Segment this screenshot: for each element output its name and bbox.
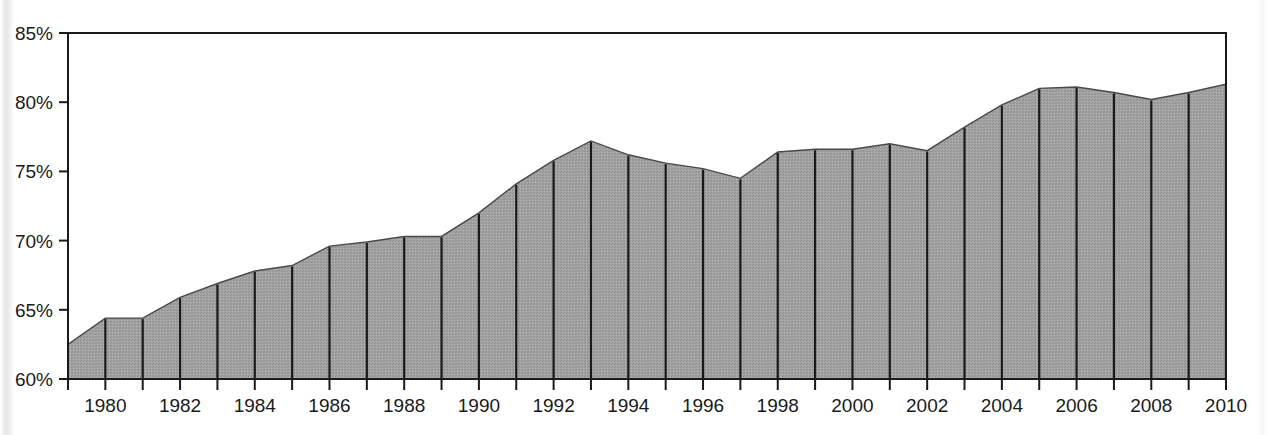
x-tick-label-2000: 2000 bbox=[831, 395, 873, 416]
y-axis: 60%65%70%75%80%85% bbox=[15, 23, 68, 390]
x-tick-label-1986: 1986 bbox=[308, 395, 350, 416]
x-tick-label-2006: 2006 bbox=[1055, 395, 1097, 416]
y-tick-label-65: 65% bbox=[15, 300, 53, 321]
x-tick-label-1988: 1988 bbox=[383, 395, 425, 416]
x-tick-label-1984: 1984 bbox=[234, 395, 277, 416]
y-tick-label-75: 75% bbox=[15, 161, 53, 182]
y-tick-label-80: 80% bbox=[15, 92, 53, 113]
area-chart: 60%65%70%75%80%85% 198019821984198619881… bbox=[0, 0, 1268, 435]
x-tick-label-2008: 2008 bbox=[1130, 395, 1172, 416]
y-tick-label-85: 85% bbox=[15, 23, 53, 44]
y-tick-label-60: 60% bbox=[15, 369, 53, 390]
x-tick-label-2002: 2002 bbox=[906, 395, 948, 416]
x-tick-label-1990: 1990 bbox=[458, 395, 500, 416]
x-tick-label-1994: 1994 bbox=[607, 395, 650, 416]
x-tick-label-1996: 1996 bbox=[682, 395, 724, 416]
x-axis: 1980198219841986198819901992199419961998… bbox=[68, 379, 1247, 416]
x-tick-label-2004: 2004 bbox=[981, 395, 1024, 416]
x-tick-label-2010: 2010 bbox=[1205, 395, 1247, 416]
x-tick-label-1998: 1998 bbox=[757, 395, 799, 416]
x-tick-label-1980: 1980 bbox=[84, 395, 126, 416]
x-tick-label-1992: 1992 bbox=[532, 395, 574, 416]
chart-root: 60%65%70%75%80%85% 198019821984198619881… bbox=[0, 0, 1268, 435]
y-tick-label-70: 70% bbox=[15, 231, 53, 252]
x-tick-label-1982: 1982 bbox=[159, 395, 201, 416]
